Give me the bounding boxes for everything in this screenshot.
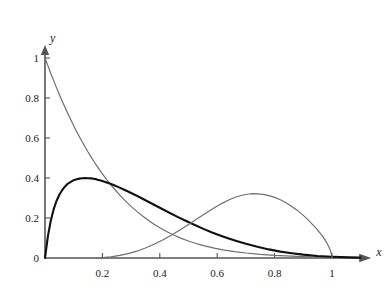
x-tick-label: 0.8 [268,268,282,279]
chart-figure: 0.20.40.60.810.20.40.60.810 x y [0,0,387,294]
y-tick-label: 0.8 [25,93,39,104]
y-axis-label: y [50,32,55,44]
y-tick-label: 0.6 [25,133,39,144]
y-tick-label: 1 [34,53,40,64]
x-tick-label: 1 [329,268,335,279]
origin-label: 0 [34,253,40,264]
x-axis-label: x [376,246,381,258]
x-tick-label: 0.4 [153,268,167,279]
x-tick-label: 0.2 [96,268,110,279]
x-tick-label: 0.6 [210,268,224,279]
data-series-group [45,58,361,258]
plot-area [0,0,387,294]
tick-marks [45,58,332,258]
y-tick-label: 0.2 [25,213,39,224]
y-axis-arrowhead [41,45,49,55]
y-tick-label: 0.4 [25,173,39,184]
